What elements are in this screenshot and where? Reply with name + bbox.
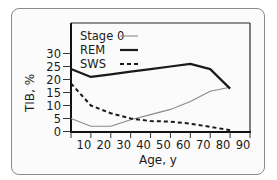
x-tick-label: 50 <box>156 138 171 152</box>
x-tick-label: 30 <box>116 138 131 152</box>
y-axis-ticks: 051015202530 <box>46 47 71 139</box>
x-axis-title: Age, y <box>139 153 177 167</box>
legend-label-stage-0: Stage 0 <box>80 29 124 43</box>
y-tick-label: 30 <box>46 47 61 61</box>
x-tick-label: 80 <box>216 138 231 152</box>
y-tick-label: 20 <box>46 73 61 87</box>
y-tick-label: 15 <box>46 86 61 100</box>
legend-label-sws: SWS <box>80 57 106 71</box>
y-tick-label: 10 <box>46 99 61 113</box>
y-tick-label: 5 <box>54 112 61 126</box>
x-tick-label: 90 <box>236 138 251 152</box>
x-axis-ticks: 102030405060708090 <box>71 132 250 152</box>
x-tick-label: 20 <box>96 138 111 152</box>
y-tick-label: 0 <box>54 125 61 139</box>
y-axis-title: TIB, % <box>23 74 37 113</box>
legend: Stage 0REMSWS <box>80 29 138 71</box>
series-sws <box>71 83 230 130</box>
y-tick-label: 25 <box>46 60 61 74</box>
x-tick-label: 10 <box>77 138 92 152</box>
data-series <box>71 64 230 130</box>
legend-label-rem: REM <box>80 43 105 57</box>
x-tick-label: 60 <box>176 138 191 152</box>
x-tick-label: 70 <box>196 138 211 152</box>
line-chart: 051015202530 102030405060708090 Stage 0R… <box>0 0 277 180</box>
x-tick-label: 40 <box>136 138 151 152</box>
